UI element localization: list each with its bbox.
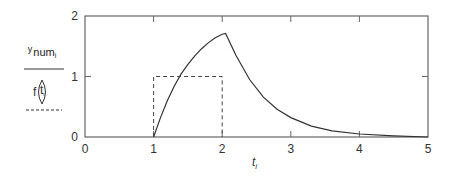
x-tick-label: 4 (356, 142, 363, 156)
legend: ynumi (18, 46, 66, 60)
series-y-num (154, 34, 428, 138)
x-tick-label: 5 (425, 142, 432, 156)
legend-func-arg: ti (40, 83, 44, 97)
y-tick-label: 1 (71, 70, 78, 84)
x-tick-label: 1 (150, 142, 157, 156)
plot-frame (85, 16, 428, 137)
legend-text: num (33, 46, 54, 58)
series-f-of-t (154, 77, 223, 138)
legend-func-name: f (33, 85, 37, 99)
y-tick-label: 0 (71, 130, 78, 144)
x-tick-label: 3 (287, 142, 294, 156)
x-tick-label: 2 (219, 142, 226, 156)
x-tick-label: 0 (82, 142, 89, 156)
line-chart: 012345012 ti f ti (0, 0, 452, 180)
legend-entry-y-num: ynumi (18, 46, 66, 60)
axis-ticks (85, 16, 428, 137)
legend-sub: i (55, 52, 57, 59)
x-axis-label: ti (252, 155, 257, 171)
y-tick-label: 2 (71, 9, 78, 23)
legend-prefix: y (28, 44, 33, 54)
